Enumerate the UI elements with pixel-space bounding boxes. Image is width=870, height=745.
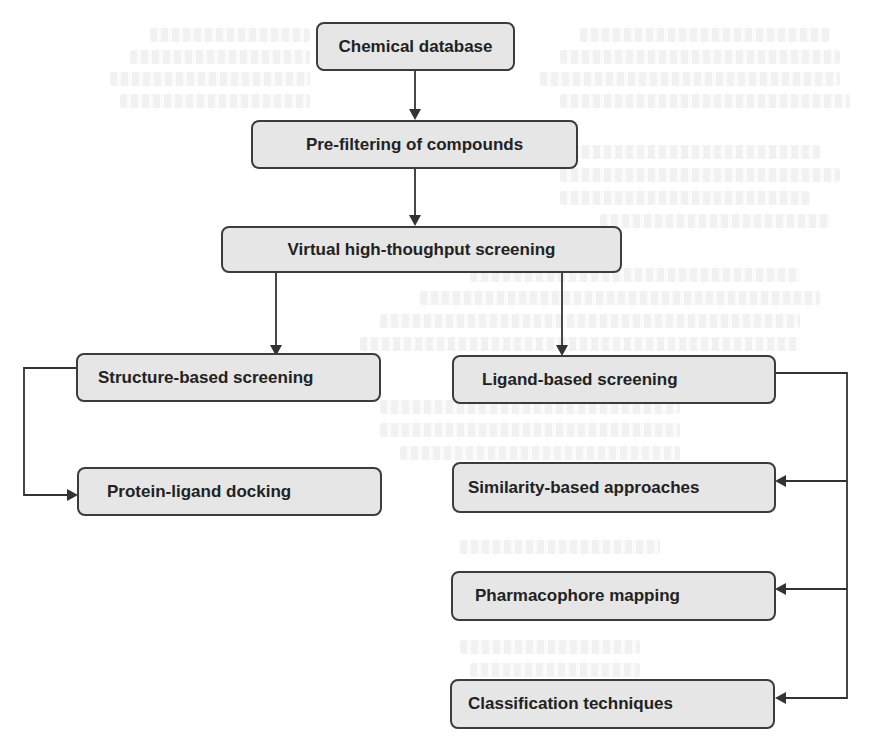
node-chemical-database: Chemical database — [316, 22, 515, 71]
node-label: Protein-ligand docking — [107, 482, 291, 502]
node-virtual-hts: Virtual high-thoughput screening — [221, 226, 622, 273]
node-label: Ligand-based screening — [482, 370, 678, 390]
node-label: Chemical database — [338, 37, 492, 57]
node-similarity-based-approaches: Similarity-based approaches — [452, 462, 776, 513]
node-label: Similarity-based approaches — [468, 478, 699, 498]
edge-ligand-trunk — [775, 373, 847, 699]
node-label: Virtual high-thoughput screening — [288, 240, 556, 260]
node-classification-techniques: Classification techniques — [450, 679, 775, 729]
arrowhead-icon — [409, 215, 421, 226]
arrowhead-icon — [775, 692, 786, 704]
edge-structure-to-docking — [24, 368, 77, 495]
node-label: Pre-filtering of compounds — [306, 135, 523, 155]
node-pre-filtering: Pre-filtering of compounds — [251, 120, 578, 169]
node-pharmacophore-mapping: Pharmacophore mapping — [451, 571, 776, 621]
node-label: Classification techniques — [468, 694, 673, 714]
node-label: Pharmacophore mapping — [475, 586, 680, 606]
arrowhead-icon — [775, 583, 786, 595]
node-label: Structure-based screening — [98, 368, 313, 388]
arrowhead-icon — [409, 109, 421, 120]
node-ligand-based-screening: Ligand-based screening — [452, 355, 776, 404]
arrowhead-icon — [775, 475, 786, 487]
node-protein-ligand-docking: Protein-ligand docking — [77, 467, 382, 516]
node-structure-based-screening: Structure-based screening — [76, 353, 381, 402]
